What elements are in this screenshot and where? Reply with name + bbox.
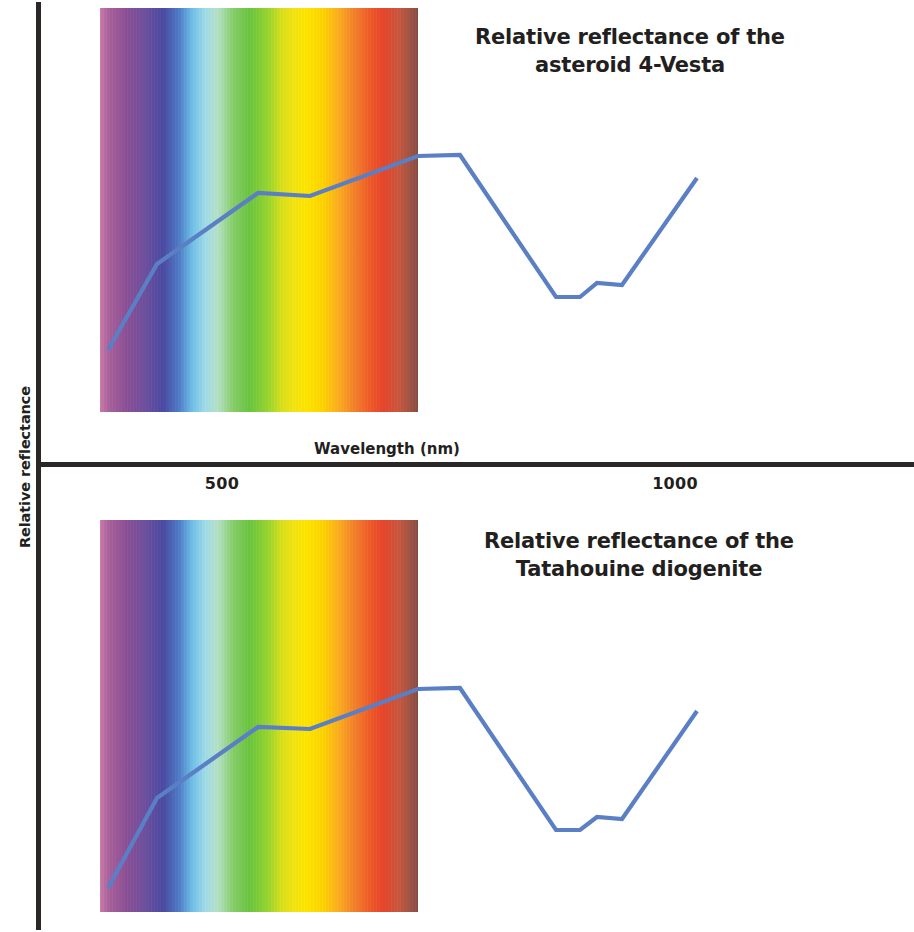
spectra-figure: Relative reflectance Wavelength (nm) 500… [0,0,914,932]
panel-title-vesta: Relative reflectance of the asteroid 4-V… [432,24,828,79]
visible-spectrum-band-bottom [100,520,418,912]
panel-vesta: Relative reflectance of the asteroid 4-V… [0,0,914,462]
visible-spectrum-band-top [100,8,418,412]
panel-tatahouine: Relative reflectance of the Tatahouine d… [0,467,914,932]
panel-title-tatahouine: Relative reflectance of the Tatahouine d… [436,528,842,583]
